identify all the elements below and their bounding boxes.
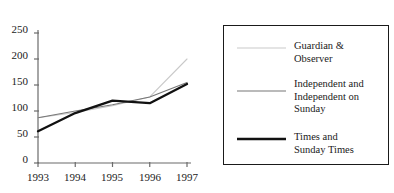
chart-legend: Guardian & Observer Independent and Inde…	[223, 25, 389, 165]
line-chart-figure: 250 200 150 100 50 0 1993 1994 1995 1996…	[0, 0, 394, 193]
chart-series	[38, 59, 187, 131]
y-tick-label-250: 250	[0, 23, 28, 35]
y-tick-label-150: 150	[0, 75, 28, 87]
x-tick-label-1993: 1993	[27, 171, 49, 183]
legend-label-guardian: Guardian & Observer	[294, 40, 386, 65]
x-tick-label-1994: 1994	[64, 171, 86, 183]
x-tick-label-1995: 1995	[101, 171, 123, 183]
y-tick-label-0: 0	[0, 153, 28, 165]
x-tick-label-1997: 1997	[176, 171, 198, 183]
y-tick-label-100: 100	[0, 101, 28, 113]
y-tick-label-50: 50	[0, 127, 28, 139]
x-tick-label-1996: 1996	[139, 171, 161, 183]
chart-axes	[34, 30, 191, 167]
y-tick-label-200: 200	[0, 49, 28, 61]
series-line-0	[38, 59, 187, 118]
legend-label-independent: Independent and Independent on Sunday	[294, 78, 390, 116]
legend-label-times: Times and Sunday Times	[294, 131, 386, 156]
